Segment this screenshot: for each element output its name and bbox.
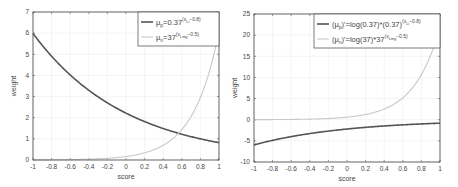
x-tick-label: -0.8	[46, 163, 58, 170]
chart-right-svg: -1-0.8-0.6-0.4-0.200.20.40.60.81-10-5051…	[229, 0, 458, 187]
x-axis-label: score	[117, 173, 134, 180]
x-tick-label: 0	[345, 165, 349, 172]
y-tick-label: -10	[241, 158, 251, 165]
y-tick-label: 6	[25, 29, 29, 36]
x-tick-label: -0.8	[267, 165, 279, 172]
chart-right: -1-0.8-0.6-0.4-0.200.20.40.60.81-10-5051…	[229, 0, 458, 187]
x-tick-label: 1	[438, 165, 442, 172]
x-tick-label: -0.6	[286, 165, 298, 172]
x-tick-label: -0.4	[83, 163, 95, 170]
legend: (μp)'=log(0.37)*(0.37)(xLi−0.8)(μn)'=log…	[314, 14, 440, 48]
x-tick-label: 0.2	[361, 165, 370, 172]
y-tick-label: 0	[246, 116, 250, 123]
x-tick-label: -0.2	[102, 163, 114, 170]
y-tick-label: 10	[243, 74, 251, 81]
y-tick-label: 4	[25, 72, 29, 79]
x-tick-label: 1	[217, 163, 221, 170]
x-tick-label: -1	[251, 165, 257, 172]
x-tick-label: -0.4	[304, 165, 316, 172]
y-tick-label: 5	[25, 51, 29, 58]
chart-left: -1-0.8-0.6-0.4-0.200.20.40.60.8101234567…	[0, 0, 229, 187]
x-tick-label: 0	[124, 163, 128, 170]
x-axis-label: score	[338, 175, 355, 182]
y-axis-label: weight	[231, 78, 239, 99]
y-tick-label: 0	[25, 156, 29, 163]
y-tick-label: 5	[246, 95, 250, 102]
x-tick-label: 0.4	[380, 165, 389, 172]
x-tick-label: -1	[30, 163, 36, 170]
x-tick-label: -0.6	[65, 163, 77, 170]
y-tick-label: 1	[25, 135, 29, 142]
y-tick-label: -5	[244, 137, 250, 144]
x-tick-label: 0.8	[417, 165, 426, 172]
y-tick-label: 15	[243, 53, 251, 60]
x-tick-label: 0.4	[159, 163, 168, 170]
y-tick-label: 20	[243, 31, 251, 38]
x-tick-label: 0.6	[398, 165, 407, 172]
x-tick-label: 0.8	[196, 163, 205, 170]
y-tick-label: 25	[243, 10, 251, 17]
y-tick-label: 7	[25, 8, 29, 15]
y-tick-label: 3	[25, 93, 29, 100]
legend: μp=0.37(xLi−0.8)μn=37(xLmg−0.5)	[138, 12, 219, 46]
chart-left-svg: -1-0.8-0.6-0.4-0.200.20.40.60.8101234567…	[0, 0, 229, 187]
y-tick-label: 2	[25, 114, 29, 121]
x-tick-label: 0.2	[140, 163, 149, 170]
x-tick-label: 0.6	[177, 163, 186, 170]
x-tick-label: -0.2	[323, 165, 335, 172]
y-axis-label: weight	[10, 76, 18, 97]
